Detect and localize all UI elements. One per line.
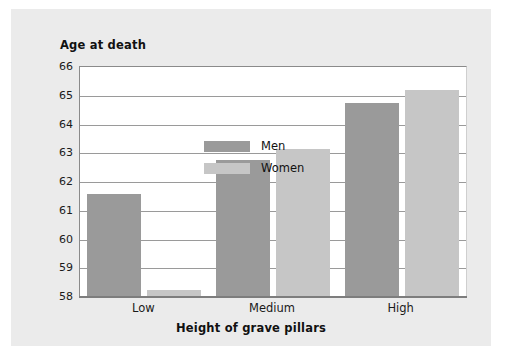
y-axis-tick-label: 60 — [43, 232, 73, 245]
legend-item: Men — [204, 135, 334, 157]
legend-label: Women — [261, 161, 304, 175]
y-axis-tick-label: 62 — [43, 175, 73, 188]
bar — [405, 90, 459, 297]
x-axis-line — [79, 296, 467, 298]
x-axis-tick-label: Low — [132, 301, 155, 315]
y-axis-tick-label: 59 — [43, 261, 73, 274]
y-axis-tick-label: 63 — [43, 146, 73, 159]
bar — [216, 160, 270, 297]
y-axis-tick-label: 58 — [43, 290, 73, 303]
y-axis-tick-label: 64 — [43, 117, 73, 130]
bar — [345, 103, 399, 297]
x-axis-tick-label: High — [387, 301, 413, 315]
legend-label: Men — [261, 139, 285, 153]
figure-panel: Age at death MenWomen 585960616263646566… — [11, 9, 491, 346]
y-axis-tick-labels: 585960616263646566 — [37, 66, 73, 296]
chart-legend: MenWomen — [204, 135, 334, 179]
chart-title: Age at death — [60, 38, 146, 52]
x-axis-title: Height of grave pillars — [11, 321, 491, 335]
legend-swatch — [204, 163, 250, 174]
y-axis-tick-label: 65 — [43, 88, 73, 101]
bar — [87, 194, 141, 298]
legend-swatch — [204, 141, 250, 152]
y-axis-tick-label: 61 — [43, 203, 73, 216]
x-axis-tick-label: Medium — [249, 301, 295, 315]
y-axis-tick-label: 66 — [43, 60, 73, 73]
legend-item: Women — [204, 157, 334, 179]
plot-area: MenWomen — [79, 66, 467, 297]
